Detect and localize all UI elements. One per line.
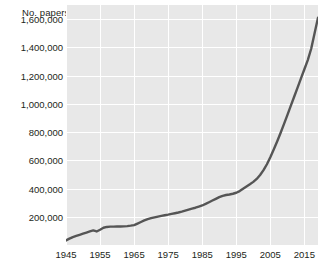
x-tick-label-3: 1975 [158,249,179,260]
x-tick-label-1: 1955 [89,249,110,260]
y-tick-label-0: 200,000 [29,211,63,222]
y-tick-label-7: 1,600,000 [21,14,63,25]
y-tick-label-1: 400,000 [29,183,63,194]
y-tick-label-5: 1,200,000 [21,70,63,81]
x-tick-label-7: 2015 [294,249,315,260]
chart-root: No. papers 200,000400,000600,000800,0001… [0,0,322,274]
x-tick-label-2: 1965 [124,249,145,260]
plot-area [66,5,318,245]
y-tick-label-6: 1,400,000 [21,42,63,53]
x-tick-label-5: 1995 [226,249,247,260]
x-tick-label-0: 1945 [55,249,76,260]
y-tick-label-2: 600,000 [29,155,63,166]
line-series-no-papers [66,5,318,245]
x-tick-label-4: 1985 [192,249,213,260]
y-tick-label-3: 800,000 [29,127,63,138]
y-tick-label-4: 1,000,000 [21,98,63,109]
x-tick-label-6: 2005 [260,249,281,260]
